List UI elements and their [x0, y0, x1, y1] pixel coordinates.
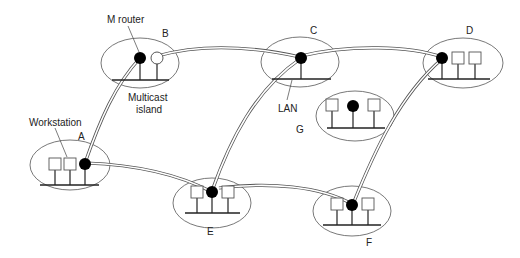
lan-label: LAN [278, 103, 297, 114]
workstation-icon [64, 158, 76, 170]
router-icon [295, 52, 307, 64]
hollow-router-icon [151, 52, 163, 64]
workstation-icon [362, 198, 374, 210]
island-f-label: F [366, 237, 372, 248]
workstation-icon [469, 52, 481, 64]
island-g-label: G [296, 124, 304, 135]
router-icon [436, 52, 448, 64]
router-icon [347, 100, 359, 112]
workstation-icon [368, 99, 380, 111]
workstation-icon [191, 186, 203, 198]
m-router-label: M router [107, 14, 145, 25]
m-router-icon [134, 52, 146, 64]
island-a-label: A [78, 131, 85, 142]
workstation-icon [452, 52, 464, 64]
workstation-icon [49, 158, 61, 170]
island-c-label: C [310, 25, 317, 36]
workstation-label: Workstation [29, 117, 82, 128]
router-icon [206, 186, 218, 198]
router-icon [79, 158, 91, 170]
island-d-label: D [466, 25, 473, 36]
island-g [316, 91, 394, 141]
multicast-label-1: Multicast [128, 92, 168, 103]
workstation-icon [331, 198, 343, 210]
multicast-label-2: island [136, 104, 162, 115]
workstation-icon [326, 99, 338, 111]
router-icon [346, 199, 358, 211]
workstation-icon [222, 186, 234, 198]
island-b-label: B [162, 28, 169, 39]
island-e-label: E [207, 226, 214, 237]
multicast-network-diagram: M router B Multicast island C D LAN G Wo… [0, 0, 520, 258]
